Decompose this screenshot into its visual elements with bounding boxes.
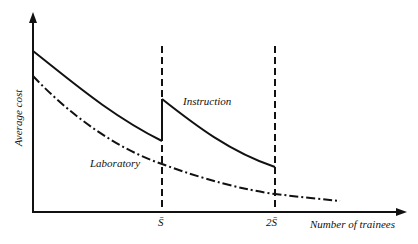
instruction-curve-segment-1 [33, 51, 162, 141]
y-axis-arrow-icon [29, 12, 37, 23]
x-axis-arrow-icon [396, 208, 407, 216]
chart-plot-area [0, 0, 418, 244]
laboratory-series-label: Laboratory [90, 157, 140, 169]
x-tick-two-s-bar: 2S̄ [266, 216, 277, 228]
instruction-curve-segment-2 [162, 99, 275, 167]
instruction-series-label: Instruction [183, 95, 231, 107]
x-tick-s-bar: S̄ [158, 216, 164, 228]
y-axis-label: Average cost [12, 78, 24, 158]
x-axis-label: Number of trainees [310, 218, 395, 230]
